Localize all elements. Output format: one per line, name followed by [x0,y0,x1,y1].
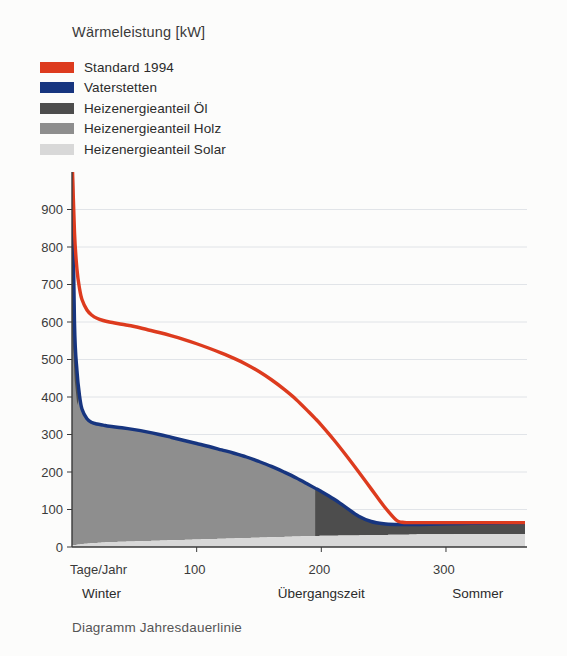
svg-text:500: 500 [41,352,63,367]
svg-text:Übergangszeit: Übergangszeit [278,586,365,601]
chart-season-labels: WinterÜbergangszeitSommer [82,586,504,601]
chart-area: 0100200300400500600700800900 Tage/Jahr10… [0,0,567,656]
chart-y-axis-labels: 0100200300400500600700800900 [41,202,72,555]
svg-text:300: 300 [41,427,63,442]
page-background: Wärmeleistung [kW] Standard 1994 Vaterst… [0,0,567,656]
svg-text:800: 800 [41,240,63,255]
svg-text:100: 100 [41,502,63,517]
svg-text:100: 100 [184,562,206,577]
svg-text:Sommer: Sommer [452,586,504,601]
svg-text:900: 900 [41,202,63,217]
svg-text:700: 700 [41,277,63,292]
svg-text:0: 0 [56,540,63,555]
svg-text:400: 400 [41,390,63,405]
svg-text:200: 200 [308,562,330,577]
svg-text:200: 200 [41,465,63,480]
svg-text:Tage/Jahr: Tage/Jahr [70,562,128,577]
jahresdauerlinie-chart: 0100200300400500600700800900 Tage/Jahr10… [0,0,567,656]
chart-x-axis-labels: Tage/Jahr100200300 [70,547,455,577]
chart-caption: Diagramm Jahresdauerlinie [72,620,242,635]
svg-text:Winter: Winter [82,586,122,601]
svg-text:300: 300 [433,562,455,577]
svg-text:600: 600 [41,315,63,330]
